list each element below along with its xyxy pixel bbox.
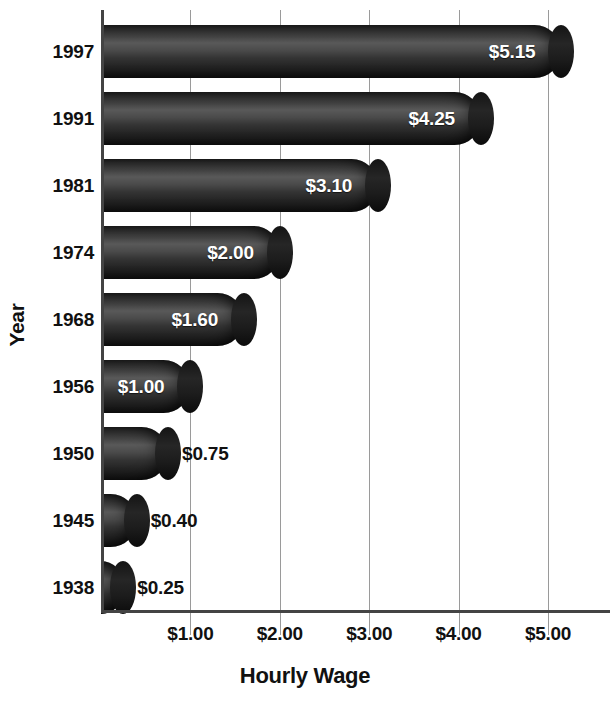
y-axis-tick-label: 1981	[18, 159, 94, 212]
bar-end-cap	[124, 494, 150, 547]
bar-row[interactable]: $0.75	[101, 427, 610, 480]
bar-end-cap	[365, 159, 391, 212]
x-axis-tick-label: $1.00	[145, 623, 235, 645]
bar-end-cap	[468, 92, 494, 145]
bar-value-label: $4.25	[101, 92, 455, 145]
y-axis-tick-label: 1974	[18, 226, 94, 279]
bar-value-label: $5.15	[101, 25, 535, 78]
bar-row[interactable]: $2.00	[101, 226, 610, 279]
bar-row[interactable]: $1.00	[101, 360, 610, 413]
bar-row[interactable]: $4.25	[101, 92, 610, 145]
bar-row[interactable]: $0.40	[101, 494, 610, 547]
bar-value-label: $0.25	[137, 561, 184, 614]
x-axis-title: Hourly Wage	[0, 663, 610, 689]
plot-area: $5.15$4.25$3.10$2.00$1.60$1.00$0.75$0.40…	[101, 10, 610, 613]
bar-value-label: $3.10	[101, 159, 352, 212]
x-axis-tick-label: $4.00	[414, 623, 504, 645]
bar-row[interactable]: $5.15	[101, 25, 610, 78]
bar-value-label: $0.40	[151, 494, 198, 547]
y-axis-tick-label: 1938	[18, 561, 94, 614]
bar-value-label: $1.60	[101, 293, 218, 346]
bar-end-cap	[548, 25, 574, 78]
bar-row[interactable]: $0.25	[101, 561, 610, 614]
y-axis-tick-label: 1950	[18, 427, 94, 480]
bar-end-cap	[267, 226, 293, 279]
y-axis-tick-label: 1956	[18, 360, 94, 413]
y-axis-line	[101, 10, 104, 613]
bar-end-cap	[177, 360, 203, 413]
bar-row[interactable]: $3.10	[101, 159, 610, 212]
bar-row[interactable]: $1.60	[101, 293, 610, 346]
y-axis-tick-label: 1997	[18, 25, 94, 78]
y-axis-tick-label: 1968	[18, 293, 94, 346]
bar-value-label: $0.75	[182, 427, 229, 480]
y-axis-tick-label: 1991	[18, 92, 94, 145]
bar-end-cap	[110, 561, 136, 614]
x-axis-line	[101, 610, 610, 613]
bar-value-label: $1.00	[101, 360, 164, 413]
bar-chart: Year $5.15$4.25$3.10$2.00$1.60$1.00$0.75…	[0, 0, 610, 705]
x-axis-tick-label: $2.00	[235, 623, 325, 645]
bar-end-cap	[231, 293, 257, 346]
bar-value-label: $2.00	[101, 226, 254, 279]
bar-end-cap	[155, 427, 181, 480]
x-axis-tick-label: $3.00	[324, 623, 414, 645]
x-axis-tick-label: $5.00	[503, 623, 593, 645]
y-axis-tick-label: 1945	[18, 494, 94, 547]
